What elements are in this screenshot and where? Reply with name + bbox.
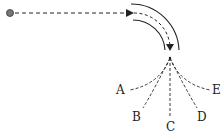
ball-icon [7,10,14,17]
label-A: A [116,84,125,96]
path-D [170,58,197,108]
diagram-canvas: A B C D E [0,0,223,134]
label-C: C [166,121,175,133]
entry-arrow-icon [126,9,134,17]
path-A [130,58,170,90]
exit-arrow-icon [166,44,174,51]
tube-outer-wall [131,4,179,50]
path-B [143,58,170,108]
label-E: E [212,84,221,96]
label-B: B [132,111,141,123]
label-D: D [197,111,207,123]
path-E [170,58,210,90]
trajectory-diagram [0,0,223,134]
